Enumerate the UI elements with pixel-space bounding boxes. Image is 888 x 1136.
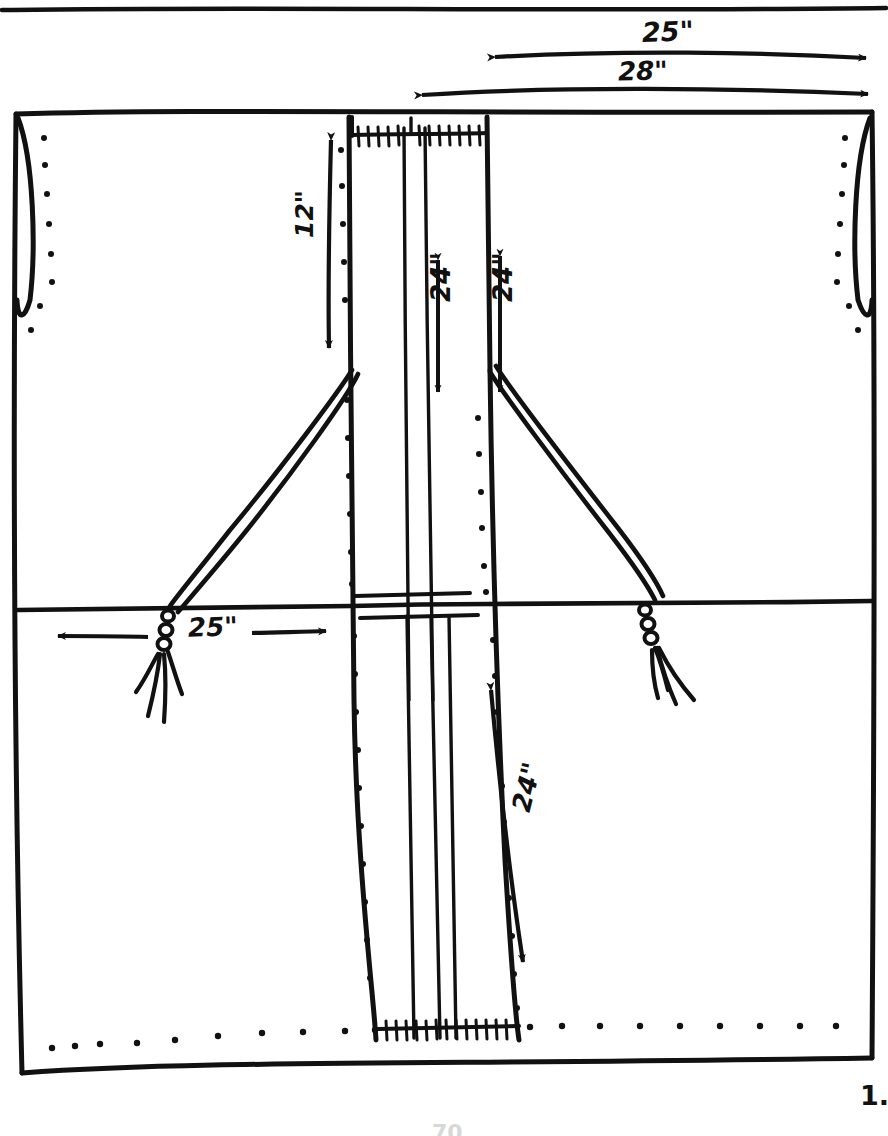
pattern-diagram (0, 0, 888, 1136)
figure-number: 1. (860, 1082, 888, 1109)
dimension-arrow-top-outer (422, 89, 868, 95)
dimension-label-top-inner: 25" (642, 17, 695, 46)
dimension-label-center-upper-left: 24" (428, 252, 454, 302)
waist-line (18, 593, 872, 618)
page-number: 70 (432, 1122, 463, 1136)
diagram-page: 25" 28" 12" 24" 24" 24" 25" 1. 70 (0, 0, 888, 1136)
stitch-line-center-left (338, 147, 373, 981)
dimension-arrow-waist-right (252, 631, 326, 633)
dimension-arrow-left-vertical (329, 140, 331, 348)
braided-tie-right (639, 605, 694, 705)
dimension-arrow-waist-left (58, 636, 148, 637)
top-gathering-band (352, 117, 487, 146)
bottom-gathering-band (378, 1020, 519, 1040)
dimension-label-top-outer: 28" (618, 58, 668, 85)
diagonal-seam-left (170, 370, 358, 612)
stitch-line-center-right (475, 415, 520, 1011)
dimension-label-waist-horizontal: 25" (188, 613, 239, 641)
diagonal-seam-right (490, 366, 663, 600)
dimension-arrow-top-inner (495, 53, 866, 58)
page-top-rule (2, 8, 886, 10)
braided-tie-left (136, 611, 182, 723)
rolled-edge-right (855, 118, 872, 315)
dimension-label-left-vertical: 12" (292, 190, 317, 238)
dimension-label-center-upper-right: 24" (490, 252, 516, 302)
rolled-edge-left (17, 118, 33, 315)
